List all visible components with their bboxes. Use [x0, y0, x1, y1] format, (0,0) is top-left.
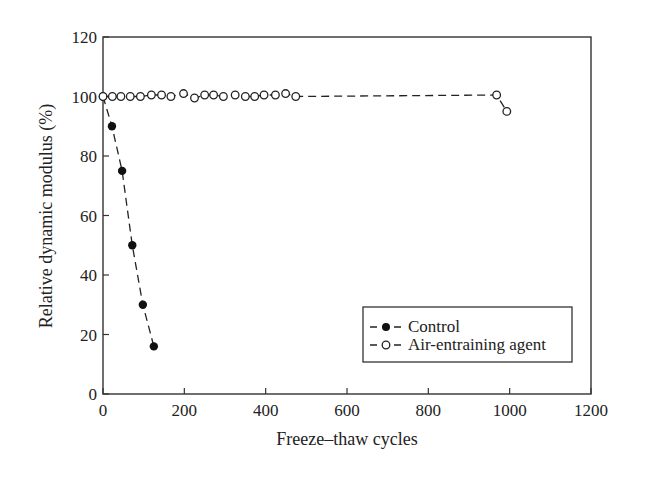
filled-circle-marker-icon	[128, 241, 136, 249]
open-circle-marker-icon	[382, 341, 390, 349]
y-tick-label: 40	[80, 266, 97, 285]
y-tick-label: 20	[80, 326, 97, 345]
x-tick-label: 400	[253, 401, 279, 420]
open-circle-marker-icon	[117, 93, 125, 101]
y-tick-label: 0	[89, 385, 98, 404]
open-circle-marker-icon	[167, 93, 175, 101]
open-circle-marker-icon	[260, 91, 268, 99]
filled-circle-marker-icon	[108, 122, 116, 130]
x-tick-label: 1000	[493, 401, 527, 420]
open-circle-marker-icon	[282, 90, 290, 98]
open-circle-marker-icon	[126, 93, 134, 101]
filled-circle-marker-icon	[382, 323, 390, 331]
open-circle-marker-icon	[220, 93, 228, 101]
y-tick-label: 100	[72, 88, 98, 107]
x-axis-title: Freeze–thaw cycles	[276, 429, 417, 449]
x-tick-label: 0	[99, 401, 108, 420]
y-tick-label: 120	[72, 28, 98, 47]
filled-circle-marker-icon	[150, 342, 158, 350]
open-circle-marker-icon	[158, 91, 166, 99]
legend: Control Air-entraining agent	[363, 307, 572, 362]
open-circle-marker-icon	[242, 93, 250, 101]
open-circle-marker-icon	[137, 93, 145, 101]
y-axis-title: Relative dynamic modulus (%)	[36, 104, 57, 328]
y-tick-label: 60	[80, 207, 97, 226]
open-circle-marker-icon	[231, 91, 239, 99]
legend-label-air-entraining: Air-entraining agent	[408, 335, 546, 354]
open-circle-marker-icon	[99, 93, 107, 101]
legend-label-control: Control	[408, 317, 460, 336]
open-circle-marker-icon	[191, 94, 199, 102]
open-circle-marker-icon	[148, 91, 156, 99]
open-circle-marker-icon	[272, 91, 280, 99]
open-circle-marker-icon	[493, 91, 501, 99]
filled-circle-marker-icon	[139, 301, 147, 309]
series-air-entraining-agent	[99, 90, 510, 115]
open-circle-marker-icon	[180, 90, 188, 98]
open-circle-marker-icon	[210, 91, 218, 99]
open-circle-marker-icon	[201, 91, 209, 99]
open-circle-marker-icon	[292, 93, 300, 101]
x-tick-label: 600	[334, 401, 360, 420]
series-line	[103, 97, 154, 347]
series-control	[99, 92, 158, 350]
open-circle-marker-icon	[109, 93, 117, 101]
open-circle-marker-icon	[251, 93, 259, 101]
x-tick-label: 1200	[574, 401, 608, 420]
y-tick-label: 80	[80, 147, 97, 166]
open-circle-marker-icon	[503, 108, 511, 116]
x-tick-label: 200	[172, 401, 198, 420]
x-tick-label: 800	[416, 401, 442, 420]
filled-circle-marker-icon	[118, 167, 126, 175]
line-chart: 020040060080010001200020406080100120 Fre…	[0, 0, 646, 477]
